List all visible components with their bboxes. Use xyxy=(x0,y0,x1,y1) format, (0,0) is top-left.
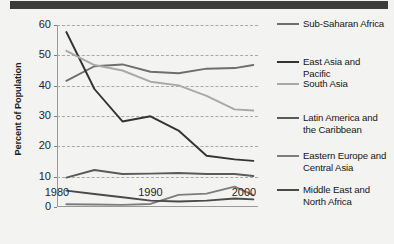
legend-swatch-icon xyxy=(277,117,299,119)
legend-swatch-icon xyxy=(277,83,299,85)
series-lines xyxy=(57,25,258,207)
y-tick-label: 50 xyxy=(25,48,51,60)
legend-swatch-icon xyxy=(277,23,299,25)
y-tick-label: 20 xyxy=(25,139,51,151)
y-tick-label: 60 xyxy=(25,18,51,30)
y-tick-mark xyxy=(54,55,57,56)
plot-area xyxy=(57,25,258,207)
series-line xyxy=(66,170,253,178)
y-tick-mark xyxy=(54,86,57,87)
series-line xyxy=(66,32,253,161)
legend-label: South Asia xyxy=(303,78,394,90)
legend: Sub-Saharan AfricaEast Asia andPacificSo… xyxy=(277,18,394,236)
y-tick-label: 30 xyxy=(25,109,51,121)
legend-label: East Asia andPacific xyxy=(303,56,394,79)
legend-label: Latin America andthe Caribbean xyxy=(303,112,394,135)
legend-label: Middle East andNorth Africa xyxy=(303,184,394,207)
legend-swatch-icon xyxy=(277,189,299,191)
legend-swatch-icon xyxy=(277,155,299,157)
legend-label: Eastern Europe andCentral Asia xyxy=(303,150,394,173)
y-tick-mark xyxy=(54,25,57,26)
y-tick-mark xyxy=(54,116,57,117)
x-tick-label: 1990 xyxy=(127,186,173,198)
header-band xyxy=(10,1,388,9)
series-line xyxy=(66,51,253,111)
y-tick-label: 0 xyxy=(25,200,51,212)
chart-figure: Percent of Population 0102030405060 1980… xyxy=(0,0,394,244)
y-tick-label: 10 xyxy=(25,170,51,182)
series-line xyxy=(66,64,253,80)
y-axis-tick-labels: 0102030405060 xyxy=(21,25,51,207)
y-tick-mark xyxy=(54,177,57,178)
x-tick-label: 2000 xyxy=(221,186,267,198)
y-tick-mark xyxy=(54,207,57,208)
legend-label: Sub-Saharan Africa xyxy=(303,18,394,30)
legend-swatch-icon xyxy=(277,61,299,63)
y-tick-mark xyxy=(54,146,57,147)
x-tick-label: 1980 xyxy=(34,186,80,198)
y-tick-label: 40 xyxy=(25,79,51,91)
